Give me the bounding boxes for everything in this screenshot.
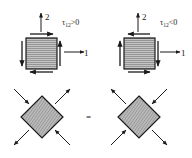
- axis-2-label: 2: [142, 12, 147, 22]
- axis-1-label: 1: [84, 48, 89, 58]
- axis-2-label: 2: [45, 12, 50, 22]
- condition-label: τ12<0: [160, 18, 177, 28]
- compression-arrow-nw-icon: [14, 89, 29, 104]
- compression-arrow-ne-icon: [152, 89, 167, 104]
- tension-arrow-ne-icon: [55, 89, 70, 104]
- stress-element-square: [124, 38, 155, 69]
- compression-arrow-se-icon: [55, 130, 70, 145]
- tension-arrow-se-icon: [152, 130, 167, 145]
- panel-negative-shear: 2 1 τ12<0: [120, 12, 186, 72]
- principal-element-positive: [14, 89, 70, 145]
- condition-label: τ12>0: [62, 18, 79, 28]
- equals-sign: =: [86, 112, 91, 122]
- stress-element-square: [26, 38, 57, 69]
- compression-arrow-sw-icon: [111, 130, 126, 145]
- principal-element-negative: [111, 89, 167, 145]
- axis-1-label: 1: [181, 48, 186, 58]
- shear-stress-diagram: 2 1 τ12>0 2 1 τ12<0: [0, 0, 192, 158]
- tension-arrow-nw-icon: [111, 89, 126, 104]
- tension-arrow-sw-icon: [14, 130, 29, 145]
- panel-positive-shear: 2 1 τ12>0: [22, 12, 89, 72]
